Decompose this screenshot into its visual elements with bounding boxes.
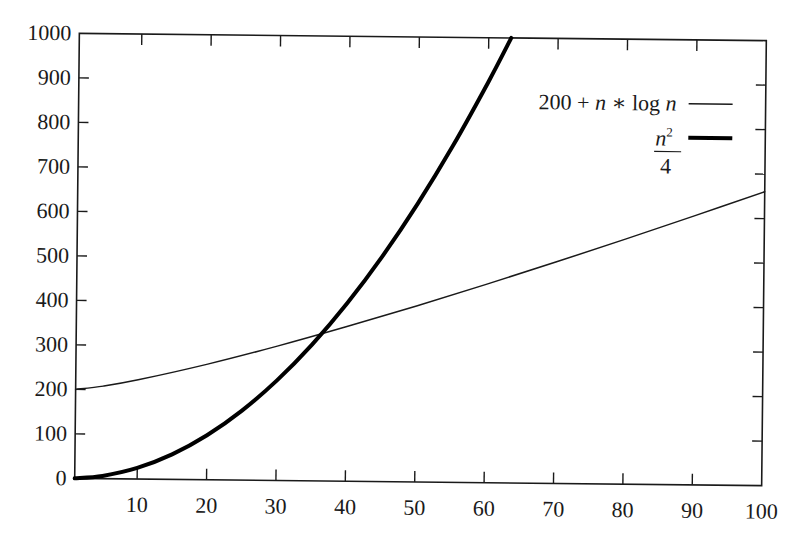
legend-label-nlogn: 200 + n ∗ log n bbox=[539, 89, 677, 115]
y-tick-label: 200 bbox=[35, 376, 68, 401]
series-n-squared-over-4 bbox=[75, 33, 512, 482]
x-tick-label: 80 bbox=[611, 497, 633, 522]
y-tick-label: 600 bbox=[36, 198, 69, 223]
x-tick-label: 20 bbox=[195, 493, 217, 518]
x-tick-label: 40 bbox=[334, 494, 356, 519]
y-tick-label: 500 bbox=[36, 242, 69, 267]
y-tick-label: 0 bbox=[56, 465, 67, 490]
x-tick-label: 10 bbox=[126, 492, 148, 517]
x-tick-label: 30 bbox=[265, 493, 287, 518]
x-tick-label: 90 bbox=[681, 498, 703, 523]
y-tick-label: 300 bbox=[35, 331, 68, 356]
y-tick-label: 800 bbox=[37, 109, 70, 134]
y-tick-label: 100 bbox=[34, 420, 67, 445]
chart: 01002003004005006007008009001000 1020304… bbox=[0, 0, 802, 534]
x-tick-label: 100 bbox=[745, 498, 778, 523]
plot-area: 01002003004005006007008009001000 1020304… bbox=[22, 20, 783, 524]
legend-label-n2-numerator: n2 bbox=[655, 124, 673, 150]
legend: 200 + n ∗ log n n2 4 bbox=[538, 89, 733, 179]
y-tick-label: 900 bbox=[38, 64, 71, 89]
series-200-plus-nlogn bbox=[76, 184, 765, 396]
legend-label-n2-denominator: 4 bbox=[660, 154, 671, 179]
x-tick-label: 60 bbox=[473, 496, 495, 521]
y-tick-label: 1000 bbox=[27, 20, 71, 45]
y-tick-label: 700 bbox=[37, 153, 70, 178]
x-tick-label: 50 bbox=[403, 495, 425, 520]
x-axis: 102030405060708090100 bbox=[126, 34, 783, 524]
y-tick-label: 400 bbox=[35, 287, 68, 312]
x-tick-label: 70 bbox=[542, 496, 564, 521]
